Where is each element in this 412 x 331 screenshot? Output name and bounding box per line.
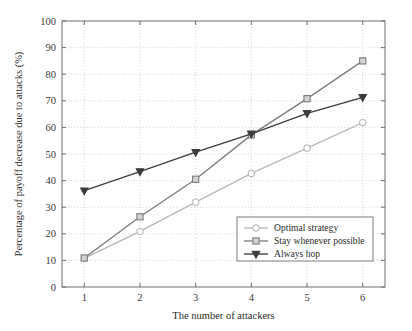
chart-figure: 0102030405060708090100123456 The number … bbox=[0, 0, 412, 331]
x-tick-label: 2 bbox=[137, 292, 142, 303]
data-point bbox=[81, 255, 87, 261]
data-point bbox=[304, 145, 310, 151]
data-point bbox=[193, 199, 199, 205]
legend-marker bbox=[253, 238, 259, 244]
y-tick-label: 50 bbox=[46, 149, 57, 160]
legend-marker bbox=[253, 225, 259, 231]
data-point bbox=[360, 120, 366, 126]
legend-label: Stay whenever possible bbox=[274, 235, 365, 246]
x-tick-label: 3 bbox=[193, 292, 198, 303]
x-tick-label: 1 bbox=[82, 292, 87, 303]
data-point bbox=[304, 96, 310, 102]
data-point bbox=[248, 170, 254, 176]
y-tick-label: 10 bbox=[46, 255, 57, 266]
y-tick-label: 90 bbox=[46, 42, 57, 53]
y-tick-label: 30 bbox=[46, 202, 57, 213]
x-tick-label: 6 bbox=[360, 292, 365, 303]
legend-label: Always hop bbox=[274, 248, 320, 259]
y-tick-label: 0 bbox=[51, 282, 56, 293]
legend-label: Optimal strategy bbox=[274, 222, 338, 233]
y-tick-label: 60 bbox=[46, 122, 57, 133]
series-line bbox=[84, 97, 362, 190]
y-tick-label: 40 bbox=[46, 175, 57, 186]
data-point bbox=[81, 188, 88, 195]
y-axis-title: Percentage of payoff decrease due to att… bbox=[13, 51, 25, 256]
legend: Optimal strategyStay whenever possibleAl… bbox=[237, 217, 373, 261]
data-point bbox=[137, 228, 143, 234]
data-point bbox=[193, 176, 199, 182]
chart-canvas: 0102030405060708090100123456 The number … bbox=[0, 0, 412, 331]
x-tick-label: 4 bbox=[249, 292, 255, 303]
y-tick-label: 20 bbox=[46, 228, 57, 239]
series-3 bbox=[81, 95, 367, 195]
y-tick-label: 80 bbox=[46, 69, 57, 80]
y-tick-label: 70 bbox=[46, 95, 57, 106]
x-tick-label: 5 bbox=[304, 292, 309, 303]
y-tick-label: 100 bbox=[40, 16, 56, 27]
data-point bbox=[137, 214, 143, 220]
data-point bbox=[360, 58, 366, 64]
x-axis-title: The number of attackers bbox=[172, 310, 274, 321]
